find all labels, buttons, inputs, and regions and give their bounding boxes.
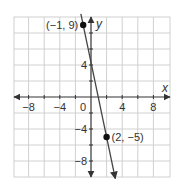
line-through-points xyxy=(81,14,115,179)
point-label: (2, −5) xyxy=(112,131,144,143)
point-label: (−1, 9) xyxy=(46,19,78,31)
origin-label: 0 xyxy=(80,101,86,113)
data-line xyxy=(81,14,115,179)
x-tick-label: −8 xyxy=(22,101,35,113)
y-tick-label: −4 xyxy=(74,123,87,135)
coordinate-plane: −8−44804−4−8 (−1, 9)(2, −5) x y xyxy=(0,0,180,186)
axes xyxy=(14,17,170,177)
data-point xyxy=(80,22,86,28)
y-axis-label: y xyxy=(95,17,103,31)
x-tick-label: 4 xyxy=(119,101,125,113)
data-point xyxy=(103,134,109,140)
x-tick-label: −4 xyxy=(54,101,67,113)
x-tick-label: 8 xyxy=(150,101,156,113)
y-tick-label: −8 xyxy=(74,155,87,167)
x-axis-label: x xyxy=(161,81,169,95)
y-tick-label: 4 xyxy=(81,59,87,71)
